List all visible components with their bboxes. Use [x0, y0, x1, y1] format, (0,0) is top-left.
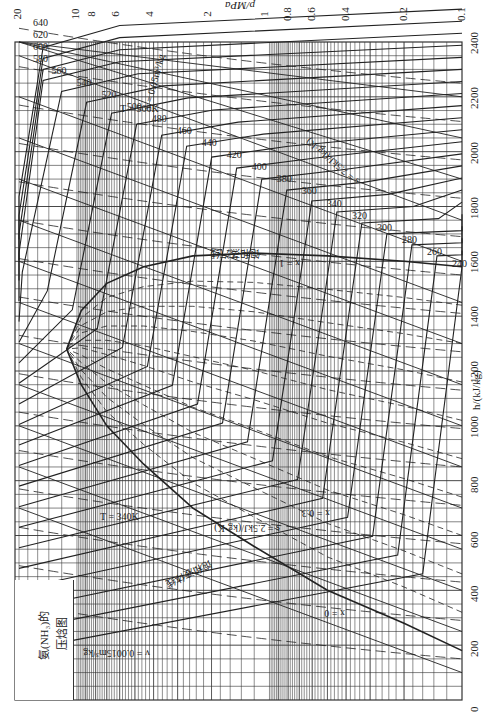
h-tick-label: 1800	[468, 197, 480, 219]
svg-text:520: 520	[102, 89, 117, 100]
h-tick-label: 200	[468, 641, 480, 658]
h-tick-label: 2400	[468, 32, 480, 54]
svg-text:360: 360	[302, 185, 317, 196]
h-tick-label: 1000	[468, 416, 480, 438]
svg-text:240: 240	[452, 258, 467, 269]
svg-text:300: 300	[377, 222, 392, 233]
h-tick-label: 1400	[468, 306, 480, 328]
svg-text:v = 0.0015m³/kg: v = 0.0015m³/kg	[83, 648, 150, 659]
svg-text:T = 340K: T = 340K	[100, 511, 140, 522]
chart-title-box: 氨(NH₃)的 压焓图	[15, 580, 74, 700]
svg-text:440: 440	[202, 137, 217, 148]
svg-text:480: 480	[152, 113, 167, 124]
p-tick-label: 6	[108, 11, 120, 17]
chart-title-line1: 氨(NH₃)的	[35, 611, 51, 660]
svg-text:620: 620	[33, 29, 48, 40]
h-axis-title: h/(kJ/kg)	[470, 370, 482, 410]
p-tick-label: 1	[258, 11, 270, 17]
svg-text:s = 2.5kJ/(kg·K): s = 2.5kJ/(kg·K)	[214, 522, 280, 534]
svg-text:640: 640	[33, 17, 48, 28]
p-tick-label: 0.6	[305, 7, 317, 21]
svg-text:580: 580	[33, 53, 48, 64]
svg-text:540: 540	[77, 77, 92, 88]
svg-text:x = 0.3: x = 0.3	[302, 508, 330, 519]
svg-text:400: 400	[252, 161, 267, 172]
p-tick-label: 20	[11, 9, 23, 20]
h-tick-label: 400	[468, 586, 480, 603]
chart-title-line2: 压焓图	[53, 617, 69, 650]
p-axis-title: p/MPa	[225, 0, 255, 12]
p-tick-label: 0.1	[455, 7, 467, 21]
svg-text:420: 420	[227, 149, 242, 160]
svg-text:x = 0: x = 0	[324, 608, 345, 619]
h-tick-label: 2000	[468, 142, 480, 164]
h-tick-label: 1600	[468, 251, 480, 273]
h-tick-label: 800	[468, 476, 480, 493]
svg-text:500: 500	[127, 101, 142, 112]
svg-text:饱和蒸汽线: 饱和蒸汽线	[210, 248, 260, 260]
p-tick-label: 10	[68, 9, 80, 20]
h-tick-label: 0	[468, 707, 480, 712]
p-tick-label: 0.2	[397, 7, 409, 21]
p-tick-label: 0.8	[281, 7, 293, 21]
p-tick-label: 0.4	[339, 7, 351, 21]
h-tick-label: 2200	[468, 87, 480, 109]
svg-text:600: 600	[33, 41, 48, 52]
svg-text:280: 280	[402, 234, 417, 245]
svg-text:260: 260	[427, 246, 442, 257]
svg-text:v = 0.05m³/kg: v = 0.05m³/kg	[141, 53, 166, 111]
p-tick-label: 2	[200, 11, 212, 17]
svg-text:560: 560	[52, 65, 67, 76]
p-tick-label: 4	[142, 11, 154, 17]
svg-text:340: 340	[327, 198, 342, 209]
svg-text:x = 1: x = 1	[279, 258, 300, 269]
p-tick-label: 8	[84, 11, 96, 17]
svg-text:320: 320	[352, 210, 367, 221]
h-tick-label: 600	[468, 531, 480, 548]
svg-text:380: 380	[277, 173, 292, 184]
svg-text:460: 460	[177, 125, 192, 136]
